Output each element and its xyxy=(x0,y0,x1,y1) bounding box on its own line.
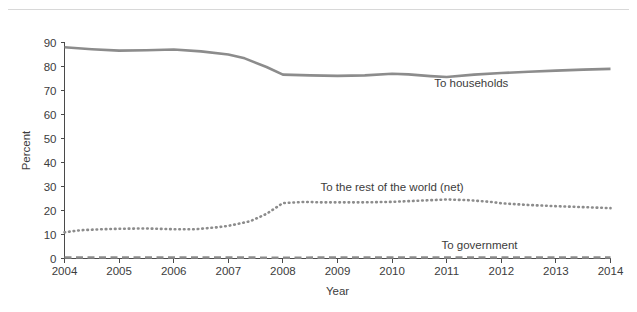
y-tick-label: 50 xyxy=(44,133,57,145)
line-chart-plot: 0102030405060708090200420052006200720082… xyxy=(0,0,637,312)
x-axis-title: Year xyxy=(326,285,349,297)
x-tick-label: 2014 xyxy=(598,265,624,277)
series-label-to-government: To government xyxy=(441,239,518,251)
y-axis-title: Percent xyxy=(20,130,32,170)
x-tick-label: 2010 xyxy=(379,265,405,277)
x-tick-label: 2011 xyxy=(434,265,459,277)
y-tick-label: 70 xyxy=(44,85,57,97)
x-tick-label: 2009 xyxy=(325,265,351,277)
series-label-to-the-rest-of-the-world-net: To the rest of the world (net) xyxy=(321,181,464,193)
y-tick-label: 60 xyxy=(44,109,57,121)
figure-container: 0102030405060708090200420052006200720082… xyxy=(0,0,637,312)
x-tick-label: 2006 xyxy=(161,265,187,277)
x-tick-label: 2004 xyxy=(52,265,78,277)
x-tick-label: 2013 xyxy=(543,265,569,277)
y-tick-label: 20 xyxy=(44,205,57,217)
x-tick-label: 2005 xyxy=(106,265,132,277)
y-tick-label: 10 xyxy=(44,229,57,241)
x-tick-label: 2012 xyxy=(489,265,515,277)
x-tick-label: 2007 xyxy=(216,265,242,277)
y-tick-label: 80 xyxy=(44,61,57,73)
x-tick-label: 2008 xyxy=(270,265,296,277)
y-tick-label: 30 xyxy=(44,181,57,193)
series-label-to-households: To households xyxy=(434,77,508,89)
series-line-to-the-rest-of-the-world-net xyxy=(65,199,611,232)
series-line-to-households xyxy=(65,47,611,77)
y-tick-label: 40 xyxy=(44,157,57,169)
y-tick-label: 0 xyxy=(50,253,56,265)
y-tick-label: 90 xyxy=(44,37,57,49)
